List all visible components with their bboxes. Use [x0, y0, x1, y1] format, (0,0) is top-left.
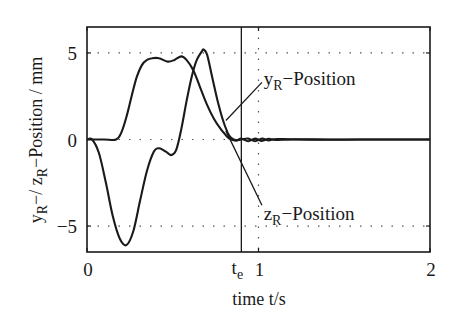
te-marker-label: te: [232, 257, 244, 282]
series-line-z: [87, 49, 430, 245]
y-tick-label: −5: [57, 216, 77, 237]
series-annotations: yR−PositionzR−Position: [226, 68, 356, 228]
series-label-y: yR−Position: [264, 68, 356, 93]
line-chart: yR−PositionzR−Position 50−5 012te time t…: [0, 0, 457, 315]
y-tick-label: 0: [68, 130, 78, 151]
annotation-pointer: [226, 131, 262, 205]
x-tick-label: 1: [255, 259, 265, 280]
x-axis-ticks: 012te: [83, 27, 436, 282]
y-tick-label: 5: [68, 43, 78, 64]
y-axis-label: yR−/ zR−Position / mm: [26, 57, 50, 224]
series-label-z: zR−Position: [264, 203, 355, 228]
x-tick-label: 0: [83, 259, 93, 280]
x-tick-label: 2: [426, 259, 436, 280]
x-axis-label: time t/s: [232, 289, 286, 309]
data-series: [87, 49, 430, 245]
annotation-pointer: [226, 82, 262, 120]
